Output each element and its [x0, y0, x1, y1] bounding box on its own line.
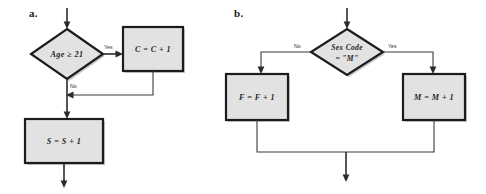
panel-b-decision-diamond: [311, 29, 383, 75]
panel-b-no-arrowhead: [258, 67, 265, 75]
panel-a-yes-label: Yes: [104, 44, 113, 50]
panel-a-merge-connector: [72, 71, 153, 95]
panel-b-exit-arrowhead: [343, 175, 350, 183]
panel-b-yes-connector: [383, 52, 433, 68]
panel-b-group: Sex Code = "M" No Yes F = F + 1 M = M + …: [226, 8, 467, 182]
panel-a-no-arrowhead: [64, 112, 71, 120]
panel-b-process-f-text: F = F + 1: [238, 93, 275, 102]
panel-b-merge-connector: [257, 120, 434, 152]
panel-b-no-label: No: [294, 43, 301, 49]
panel-b-yes-arrowhead: [430, 67, 437, 75]
panel-b-yes-label: Yes: [388, 43, 397, 49]
panel-b-decision-text-line2: = "M": [336, 54, 359, 63]
flowchart-figure: a. b. Age ≥ 21 Yes C = C + 1: [0, 0, 486, 194]
panel-a-yes-arrowhead: [116, 51, 124, 58]
panel-a-exit-arrowhead: [61, 181, 68, 189]
panel-b-no-connector: [261, 52, 311, 68]
panel-b-decision-text-line1: Sex Code: [331, 43, 363, 52]
panel-a-group: Age ≥ 21 Yes C = C + 1 No S = S + 1: [25, 8, 185, 188]
panel-a-decision-text: Age ≥ 21: [49, 50, 83, 59]
panel-a-process-c-text: C = C + 1: [135, 45, 171, 54]
panel-a-no-label: No: [70, 83, 77, 89]
flowchart-canvas: Age ≥ 21 Yes C = C + 1 No S = S + 1: [0, 0, 486, 194]
panel-a-process-s-text: S = S + 1: [47, 137, 81, 146]
panel-b-process-m-text: M = M + 1: [413, 93, 454, 102]
